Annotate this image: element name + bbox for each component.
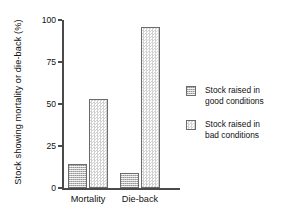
y-tick-mark: [58, 187, 62, 188]
x-tick-label-mortality: Mortality: [71, 194, 106, 204]
y-tick-label: 25: [46, 142, 56, 151]
y-axis-line: [62, 20, 64, 188]
legend-label-bad-line2: bad conditions: [205, 130, 260, 141]
y-tick-label: 50: [46, 100, 56, 109]
y-tick-mark: [58, 61, 62, 62]
y-tick-mark: [58, 19, 62, 20]
legend-label-good: Stock raised in good conditions: [205, 85, 264, 106]
legend-swatch-good-icon: [186, 86, 196, 96]
legend-label-good-line1: Stock raised in: [205, 85, 264, 96]
x-tick-label-die-back: Die-back: [122, 194, 158, 204]
bar-chart-figure: Stock showing mortality or die-back (%) …: [0, 0, 285, 223]
bar-die-back-bad: [141, 27, 160, 188]
legend-item-bad: Stock raised in bad conditions: [186, 119, 285, 140]
y-tick-label: 100: [42, 16, 56, 25]
plot-area: 0255075100 MortalityDie-back: [62, 20, 178, 188]
legend-swatch-bad-icon: [186, 120, 196, 130]
y-tick-mark: [58, 145, 62, 146]
y-tick-label: 75: [46, 58, 56, 67]
y-tick-mark: [58, 103, 62, 104]
bar-mortality-good: [68, 164, 87, 188]
legend-label-bad: Stock raised in bad conditions: [205, 119, 260, 140]
legend-label-good-line2: good conditions: [205, 96, 264, 107]
bar-die-back-good: [120, 173, 139, 188]
y-axis-title: Stock showing mortality or die-back (%): [13, 7, 23, 197]
legend-label-bad-line1: Stock raised in: [205, 119, 260, 130]
chart-legend: Stock raised in good conditions Stock ra…: [186, 85, 285, 153]
bar-mortality-bad: [89, 99, 108, 188]
legend-item-good: Stock raised in good conditions: [186, 85, 285, 106]
x-axis-line: [62, 188, 180, 190]
y-tick-label: 0: [51, 184, 56, 193]
